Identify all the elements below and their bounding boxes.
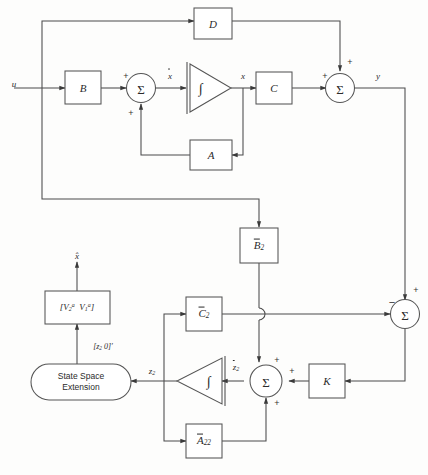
- sign-sum-output-top: +: [347, 58, 352, 67]
- signal-label-xdot: x: [168, 72, 172, 81]
- sum-output-glyph: Σ: [336, 83, 344, 96]
- sse-line-2: Extension: [62, 382, 99, 392]
- block-label-a: A: [208, 150, 215, 161]
- wire-a22-to-sum-obs: [222, 398, 266, 441]
- block-label-a22: A22: [197, 435, 211, 448]
- block-label-d: D: [209, 19, 217, 30]
- signal-label-z2dot: z2: [233, 363, 239, 373]
- sign-sum-output-left: +: [322, 72, 327, 81]
- integrator-lower-glyph: ∫: [207, 375, 211, 389]
- sign-sum-obs-bottom: +: [274, 399, 279, 408]
- sum-error-glyph: Σ: [401, 309, 409, 322]
- sum-obs-glyph: Σ: [262, 376, 270, 389]
- integrator-lower-shape: [177, 358, 222, 404]
- signal-label-z2-zero-vector: [z2 0]′: [93, 343, 113, 351]
- block-label-b2: B2: [254, 240, 264, 253]
- wire-z2-to-c2: [164, 314, 186, 381]
- wire-d-to-sum-output: [231, 21, 340, 71]
- block-label-b: B: [80, 83, 87, 94]
- block-label-vmatrix: [V2a V1a]: [60, 303, 94, 313]
- sign-sum-state-bottom: +: [128, 109, 133, 118]
- wire-x-to-a: [232, 88, 243, 155]
- integrator-upper-glyph: ∫: [199, 82, 203, 96]
- wire-layer: [0, 0, 428, 475]
- integrator-upper-shape: [190, 64, 231, 112]
- wire-sum-error-to-k: [345, 329, 405, 381]
- block-label-c: C: [270, 83, 277, 94]
- sign-sum-obs-right: +: [289, 367, 294, 376]
- sign-sum-obs-top: +: [274, 356, 279, 365]
- wire-y-to-sum-error: [355, 88, 405, 300]
- signal-label-y: y: [376, 72, 380, 81]
- sum-state-glyph: Σ: [137, 83, 145, 96]
- block-label-sse: State Space Extension: [58, 371, 104, 392]
- wire-a-to-sum-state: [141, 104, 190, 155]
- sign-sum-error-top: +: [413, 286, 418, 295]
- signal-label-z2: z2: [149, 367, 155, 377]
- sign-sum-state-left: +: [123, 72, 128, 81]
- signal-label-u: u: [12, 80, 17, 89]
- signal-label-xhat: x̂: [75, 252, 79, 261]
- block-label-c2: C2: [199, 308, 210, 321]
- sse-line-1: State Space: [58, 371, 104, 381]
- sign-sum-error-left: −: [389, 297, 395, 308]
- wire-z2-to-a22: [164, 381, 186, 441]
- block-label-k: K: [323, 376, 330, 387]
- block-diagram-canvas: u x x y z2 z2 x̂ [z2 0]′ D B A C K B2 C2…: [0, 0, 428, 475]
- signal-label-x: x: [241, 72, 245, 81]
